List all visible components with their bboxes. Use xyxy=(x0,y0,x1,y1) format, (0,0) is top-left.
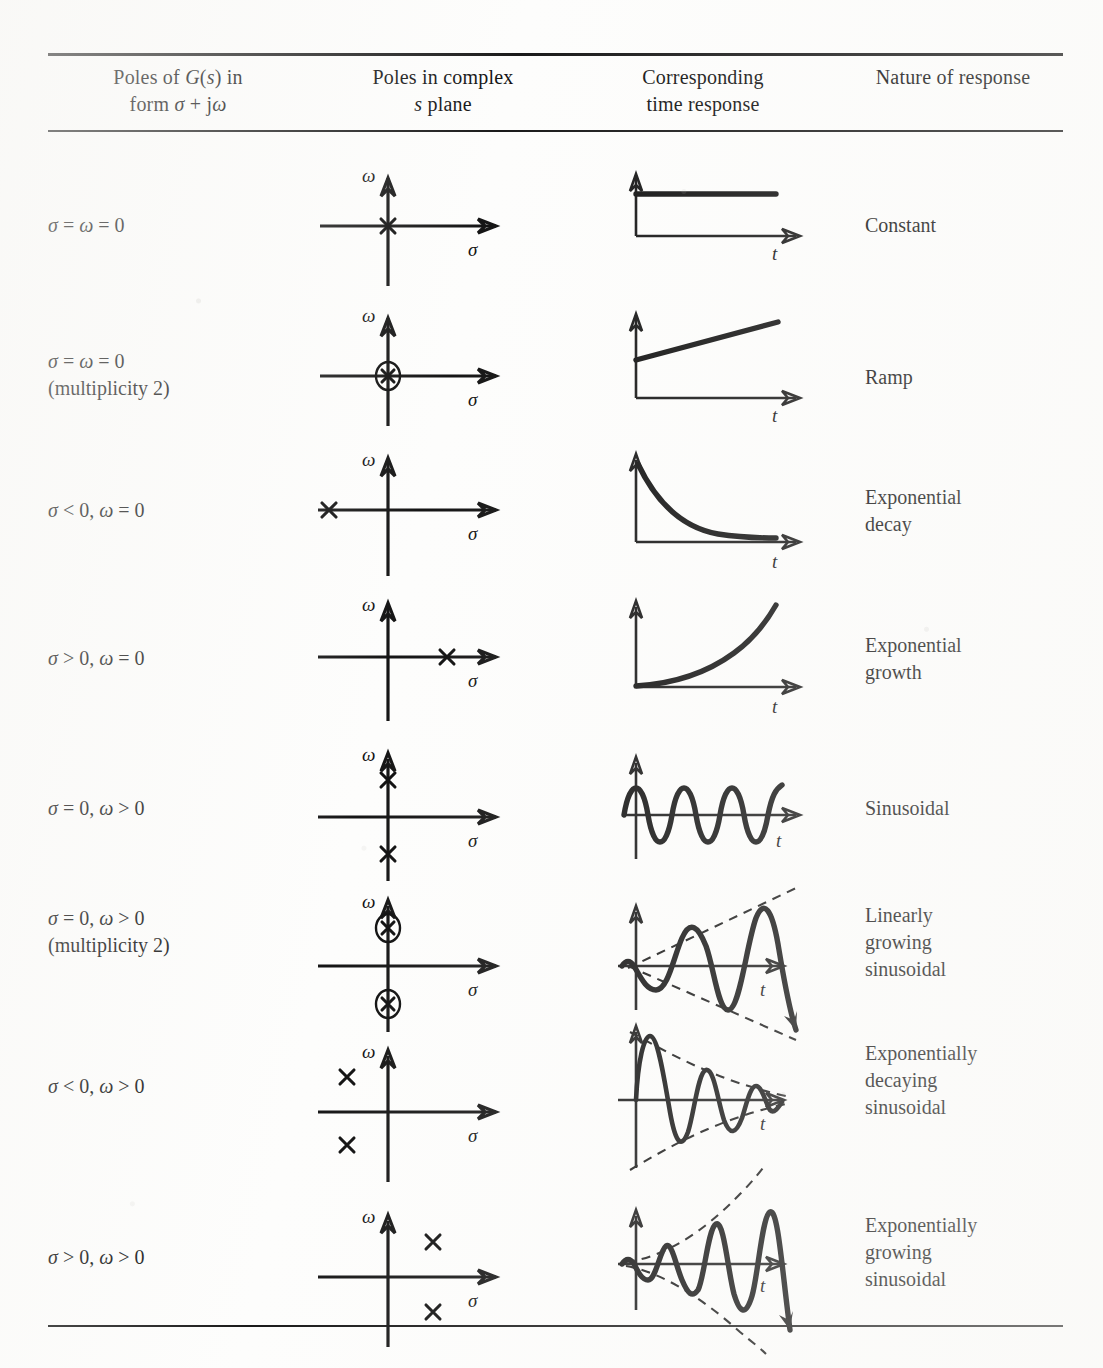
column-header-line2: s plane xyxy=(318,91,568,118)
s-plane-plot: ω σ xyxy=(300,1195,530,1355)
row-condition: σ < 0, ω = 0 xyxy=(48,497,145,524)
row-nature: Exponentialdecay xyxy=(865,484,962,538)
row-nature: Exponentiallydecayingsinusoidal xyxy=(865,1040,977,1121)
svg-text:t: t xyxy=(760,979,766,1000)
svg-text:ω: ω xyxy=(362,1041,375,1062)
s-plane-plot: ω σ xyxy=(300,585,530,725)
row-nature: Sinusoidal xyxy=(865,795,949,822)
svg-text:t: t xyxy=(772,405,778,426)
figure-caption-cropped xyxy=(0,1360,1103,1368)
row-condition: σ < 0, ω > 0 xyxy=(48,1073,145,1100)
svg-text:t: t xyxy=(772,243,778,264)
svg-text:ω: ω xyxy=(362,744,375,765)
table-header-rule xyxy=(48,130,1063,132)
row-nature: Constant xyxy=(865,212,936,239)
svg-text:σ: σ xyxy=(468,239,478,260)
column-header-line2: time response xyxy=(578,91,828,118)
row-condition: σ > 0, ω > 0 xyxy=(48,1244,145,1271)
svg-text:t: t xyxy=(772,696,778,717)
pole-marker-x xyxy=(426,1305,440,1319)
pole-marker-x xyxy=(340,1070,354,1084)
column-header-line2: form σ + jω xyxy=(48,91,308,118)
time-response-plot: t xyxy=(600,160,830,290)
table-top-rule xyxy=(48,53,1063,56)
column-header-line1: Poles in complex xyxy=(318,64,568,91)
table-bottom-rule xyxy=(48,1325,1063,1327)
column-header-corresponding-time-response: Corresponding time response xyxy=(578,64,828,118)
time-response-plot: t xyxy=(600,1180,830,1365)
svg-text:ω: ω xyxy=(362,305,375,326)
column-header-line1: Corresponding xyxy=(578,64,828,91)
column-header-line1: Nature of response xyxy=(838,64,1068,91)
svg-text:t: t xyxy=(760,1113,766,1134)
time-response-plot: t xyxy=(600,1020,830,1200)
svg-text:ω: ω xyxy=(362,891,375,912)
time-response-plot: t xyxy=(600,300,830,430)
s-plane-plot: ω σ xyxy=(300,1030,530,1190)
svg-text:σ: σ xyxy=(468,830,478,851)
svg-text:σ: σ xyxy=(468,523,478,544)
row-nature: Linearlygrowingsinusoidal xyxy=(865,902,946,983)
row-condition: σ = 0, ω > 0 xyxy=(48,795,145,822)
s-plane-plot: ω σ xyxy=(300,440,530,580)
svg-text:σ: σ xyxy=(468,670,478,691)
column-header-line1: Poles of G(s) in xyxy=(48,64,308,91)
column-header-nature-of-response: Nature of response xyxy=(838,64,1068,91)
row-condition: σ > 0, ω = 0 xyxy=(48,645,145,672)
row-nature: Exponentialgrowth xyxy=(865,632,962,686)
svg-text:t: t xyxy=(776,830,782,851)
time-response-plot: t xyxy=(600,440,830,580)
svg-text:ω: ω xyxy=(362,1206,375,1227)
time-response-plot: t xyxy=(600,735,830,885)
svg-text:σ: σ xyxy=(468,389,478,410)
column-header-poles-in-complex-s-plane: Poles in complex s plane xyxy=(318,64,568,118)
row-condition: σ = ω = 0 xyxy=(48,212,125,239)
svg-text:t: t xyxy=(760,1275,766,1296)
svg-text:t: t xyxy=(772,551,778,572)
pole-marker-x xyxy=(426,1235,440,1249)
s-plane-plot: ω σ xyxy=(300,880,530,1040)
svg-text:ω: ω xyxy=(362,449,375,470)
svg-text:ω: ω xyxy=(362,165,375,186)
svg-text:σ: σ xyxy=(468,1290,478,1311)
time-response-plot: t xyxy=(600,585,830,725)
pole-marker-x xyxy=(340,1138,354,1152)
row-nature: Ramp xyxy=(865,364,913,391)
s-plane-plot: ω σ xyxy=(300,735,530,885)
s-plane-plot: ω σ xyxy=(300,160,530,290)
svg-text:ω: ω xyxy=(362,594,375,615)
svg-text:σ: σ xyxy=(468,979,478,1000)
row-condition: σ = 0, ω > 0(multiplicity 2) xyxy=(48,905,170,959)
envelope-upper xyxy=(628,888,796,968)
row-nature: Exponentiallygrowingsinusoidal xyxy=(865,1212,977,1293)
column-header-poles-of-g: Poles of G(s) in form σ + jω xyxy=(48,64,308,118)
svg-text:σ: σ xyxy=(468,1125,478,1146)
row-condition: σ = ω = 0(multiplicity 2) xyxy=(48,348,170,402)
s-plane-plot: ω σ xyxy=(300,300,530,430)
